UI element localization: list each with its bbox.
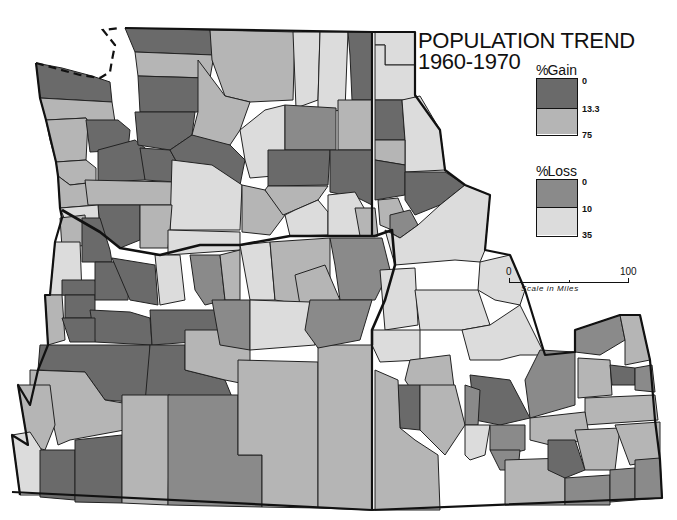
scale-mid-tick [569,280,570,283]
county [125,28,214,55]
county [465,385,480,425]
county [635,458,662,500]
gain-swatch-high [537,109,577,134]
county [210,30,295,102]
county [90,310,152,345]
county [415,290,490,330]
county [372,330,420,362]
county [525,350,575,418]
county [398,385,420,430]
county [46,118,88,162]
loss-tick-1: 10 [582,204,592,214]
county [318,345,372,510]
loss-legend-box [536,179,578,237]
county [375,100,405,140]
county [62,280,98,295]
loss-swatch-high [537,208,577,235]
county [285,105,336,150]
county [250,300,315,350]
loss-swatch-low [537,180,577,208]
gain-legend-box [536,78,578,136]
county [155,255,185,305]
county [348,32,372,100]
loss-tick-0: 0 [582,177,587,187]
county [465,425,490,460]
gain-legend: %Gain 0 13.3 75 [536,62,616,152]
scale-end-label: 100 [620,266,637,277]
loss-legend: %Loss 0 10 35 [536,163,616,253]
county [338,100,372,150]
county [585,395,658,425]
scale-bar: 0 100 Scale in Miles [505,266,635,292]
county [305,300,372,348]
gain-tick-2: 75 [582,130,592,140]
county [420,385,465,455]
county [578,358,612,398]
county [138,76,205,112]
county [62,318,95,342]
gain-legend-heading: %Gain [536,62,577,78]
gain-tick-0: 0 [582,76,587,86]
scale-start-label: 0 [506,266,512,277]
county [610,468,635,502]
county [75,435,122,503]
county [268,150,330,186]
county [122,395,170,505]
county [330,238,390,300]
county [85,180,175,205]
county [610,365,635,385]
scale-caption: Scale in Miles [521,284,579,293]
title-line-1: POPULATION TREND [418,30,635,51]
county [293,32,320,108]
loss-legend-heading: %Loss [536,163,577,179]
county [190,255,225,305]
gain-swatch-low [537,79,577,109]
county [40,450,75,500]
county [36,63,112,102]
county [140,205,172,248]
loss-tick-2: 35 [582,230,592,240]
county [240,242,275,300]
gain-tick-1: 13.3 [582,104,600,114]
county [375,160,405,200]
